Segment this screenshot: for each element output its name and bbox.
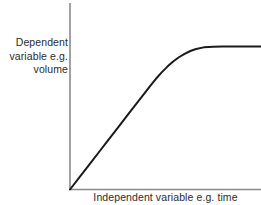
y-axis-label: Dependent variable e.g. volume xyxy=(0,36,68,77)
y-axis-label-line-3: volume xyxy=(0,63,68,77)
data-series-curve xyxy=(70,46,261,189)
x-axis-label: Independent variable e.g. time xyxy=(70,191,261,204)
y-axis-label-line-2: variable e.g. xyxy=(0,50,68,64)
chart-figure: Dependent variable e.g. volume Independe… xyxy=(0,0,261,205)
y-axis-label-line-1: Dependent xyxy=(0,36,68,50)
chart-plot-area xyxy=(0,0,261,205)
